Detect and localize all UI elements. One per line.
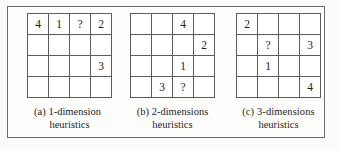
grid-cell: 4 [300, 77, 321, 98]
grid-cell [300, 56, 321, 77]
grid-cell [194, 56, 215, 77]
grid-cell [237, 56, 258, 77]
caption-line-2: heuristics [34, 118, 105, 131]
caption-line-1: (b) 2-dimensions [137, 106, 208, 117]
grid-cell [237, 35, 258, 56]
figure-root: 4 1 ? 2 3 [0, 0, 341, 150]
grid-row: 4 1 ? 2 [28, 14, 112, 35]
grid-cell: 1 [258, 56, 279, 77]
grid-cell: 4 [173, 14, 194, 35]
grid-cell: 1 [49, 14, 70, 35]
caption-line-2: heuristics [242, 118, 314, 131]
grid-row [28, 77, 112, 98]
grid-cell [131, 77, 152, 98]
grid-cell [49, 35, 70, 56]
grid-cell [131, 14, 152, 35]
grid-cell [49, 56, 70, 77]
panel-1-dimension-heuristics: 4 1 ? 2 3 [7, 6, 119, 131]
grid-cell [152, 56, 173, 77]
panel-container: 4 1 ? 2 3 [7, 6, 325, 138]
grid-cell [173, 35, 194, 56]
grid-cell: 3 [152, 77, 173, 98]
panel-3-dimensions-heuristics: 2 ? 3 1 [219, 6, 325, 131]
grid-cell [70, 35, 91, 56]
grid-cell [300, 14, 321, 35]
grid-3-dimensions: 2 ? 3 1 [236, 13, 321, 98]
panel-caption: (b) 2-dimensions heuristics [137, 105, 208, 131]
grid-cell: ? [70, 14, 91, 35]
grid-cell [28, 35, 49, 56]
grid-row: ? 3 [237, 35, 321, 56]
grid-cell [194, 14, 215, 35]
grid-cell [152, 14, 173, 35]
grid-cell: ? [173, 77, 194, 98]
grid-row: 3 ? [131, 77, 215, 98]
grid-cell [152, 35, 173, 56]
grid-cell [258, 14, 279, 35]
grid-row: 1 [237, 56, 321, 77]
grid-row: 2 [131, 35, 215, 56]
grid-cell [70, 56, 91, 77]
grid-cell [131, 35, 152, 56]
caption-line-2: heuristics [137, 118, 208, 131]
grid-cell [91, 35, 112, 56]
grid-cell [194, 77, 215, 98]
grid-cell: 3 [300, 35, 321, 56]
grid-cell [49, 77, 70, 98]
grid-row: 4 [131, 14, 215, 35]
caption-line-1: (c) 3-dimensions [242, 106, 314, 117]
grid-cell [91, 77, 112, 98]
grid-cell: 2 [237, 14, 258, 35]
grid-cell [258, 77, 279, 98]
grid-cell: ? [258, 35, 279, 56]
grid-2-dimensions: 4 2 1 [130, 13, 215, 98]
grid-1-dimension: 4 1 ? 2 3 [27, 13, 112, 98]
caption-line-1: (a) 1-dimension [34, 106, 105, 117]
grid-cell [131, 56, 152, 77]
grid-row [28, 35, 112, 56]
grid-row: 3 [28, 56, 112, 77]
grid-cell [237, 77, 258, 98]
grid-cell: 4 [28, 14, 49, 35]
panel-2-dimensions-heuristics: 4 2 1 [119, 6, 219, 131]
grid-cell [279, 77, 300, 98]
panel-caption: (a) 1-dimension heuristics [34, 105, 105, 131]
grid-cell [279, 56, 300, 77]
grid-cell: 1 [173, 56, 194, 77]
grid-cell [70, 77, 91, 98]
grid-cell [28, 56, 49, 77]
grid-cell [279, 35, 300, 56]
grid-cell: 2 [91, 14, 112, 35]
grid-cell [28, 77, 49, 98]
panel-caption: (c) 3-dimensions heuristics [242, 105, 314, 131]
grid-cell: 3 [91, 56, 112, 77]
grid-row: 1 [131, 56, 215, 77]
grid-row: 4 [237, 77, 321, 98]
grid-cell [279, 14, 300, 35]
grid-cell: 2 [194, 35, 215, 56]
grid-row: 2 [237, 14, 321, 35]
